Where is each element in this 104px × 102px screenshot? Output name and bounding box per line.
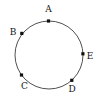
point-marker-c (20, 73, 23, 76)
point-label-e: E (87, 52, 94, 61)
circle-diagram: ABCDE (0, 0, 104, 102)
point-label-b: B (10, 28, 17, 37)
point-label-d: D (68, 85, 75, 94)
point-markers (20, 19, 85, 81)
point-label-a: A (45, 5, 52, 14)
point-marker-b (20, 32, 23, 35)
point-marker-e (81, 52, 84, 55)
point-label-c: C (21, 82, 28, 91)
point-marker-d (70, 79, 73, 82)
point-marker-a (47, 19, 50, 22)
